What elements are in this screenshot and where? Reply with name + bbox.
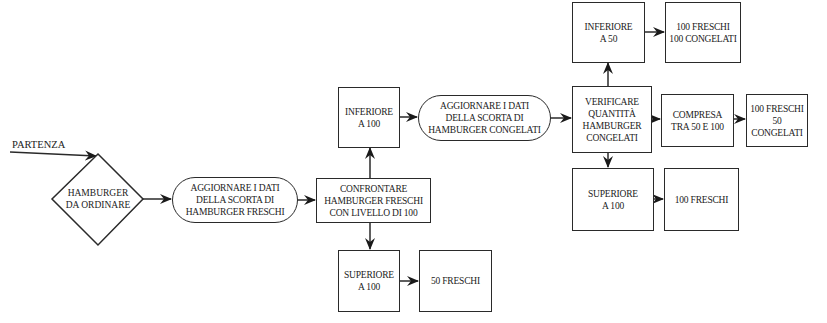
node-text-line: 100 FRESCHI [669, 21, 736, 33]
node-text-line: HAMBURGER FRESCHI [186, 206, 285, 218]
process-check-frozen[interactable]: VERIFICARE QUANTITÀ HAMBURGER CONGELATI [572, 86, 652, 153]
node-text-line: 50 CONGELATI [747, 115, 807, 139]
order-50-fresh[interactable]: 50 FRESCHI [419, 250, 492, 312]
arrow-start-to-decision [10, 152, 96, 156]
condition-fresh-above-100[interactable]: SUPERIORE A 100 [338, 250, 400, 312]
decision-hamburger-to-order[interactable]: HAMBURGER DA ORDINARE [52, 187, 144, 211]
process-update-frozen-stock[interactable]: AGGIORNARE I DATI DELLA SCORTA DI HAMBUR… [418, 95, 551, 141]
node-text-line: QUANTITÀ [583, 108, 642, 120]
process-update-fresh-stock[interactable]: AGGIORNARE I DATI DELLA SCORTA DI HAMBUR… [172, 177, 298, 223]
condition-frozen-above-100[interactable]: SUPERIORE A 100 [572, 168, 654, 231]
condition-frozen-between-50-100[interactable]: COMPRESA TRA 50 E 100 [661, 94, 734, 147]
node-text-line: HAMBURGER [583, 120, 642, 132]
node-text-line: DA ORDINARE [52, 199, 144, 211]
order-100-fresh-100-frozen[interactable]: 100 FRESCHI 100 CONGELATI [665, 2, 741, 63]
node-text-line: INFERIORE [585, 21, 633, 33]
node-text-line: A 100 [588, 200, 638, 212]
node-text-line: TRA 50 E 100 [671, 121, 724, 133]
node-text-line: SUPERIORE [588, 188, 638, 200]
node-text-line: SUPERIORE [344, 269, 394, 281]
node-text-line: COMPRESA [671, 109, 724, 121]
order-100-fresh[interactable]: 100 FRESCHI [664, 168, 739, 231]
node-text-line: CON LIVELLO DI 100 [324, 207, 423, 219]
node-text-line: CONGELATI [583, 132, 642, 144]
order-100-fresh-50-frozen[interactable]: 100 FRESCHI 50 CONGELATI [746, 94, 808, 147]
node-text-line: 100 CONGELATI [669, 33, 736, 45]
node-text-line: A 100 [345, 118, 393, 130]
process-compare-fresh[interactable]: CONFRONTARE HAMBURGER FRESCHI CON LIVELL… [316, 178, 431, 223]
node-text-line: HAMBURGER CONGELATI [428, 124, 541, 136]
start-label: PARTENZA [12, 139, 65, 150]
condition-frozen-below-50[interactable]: INFERIORE A 50 [572, 2, 645, 63]
condition-fresh-below-100[interactable]: INFERIORE A 100 [338, 87, 400, 148]
node-text-line: INFERIORE [345, 106, 393, 118]
node-text-line: HAMBURGER FRESCHI [324, 195, 423, 207]
node-text-line: AGGIORNARE I DATI [428, 100, 541, 112]
node-text-line: DELLA SCORTA DI [428, 112, 541, 124]
node-text-line: A 50 [585, 33, 633, 45]
node-text-line: 100 FRESCHI [747, 103, 807, 115]
node-text-line: 50 FRESCHI [431, 275, 480, 287]
node-text-line: DELLA SCORTA DI [186, 194, 285, 206]
node-text-line: A 100 [344, 281, 394, 293]
node-text-line: VERIFICARE [583, 96, 642, 108]
node-text-line: AGGIORNARE I DATI [186, 182, 285, 194]
node-text-line: CONFRONTARE [324, 183, 423, 195]
node-text-line: HAMBURGER [52, 187, 144, 199]
node-text-line: 100 FRESCHI [675, 194, 729, 206]
